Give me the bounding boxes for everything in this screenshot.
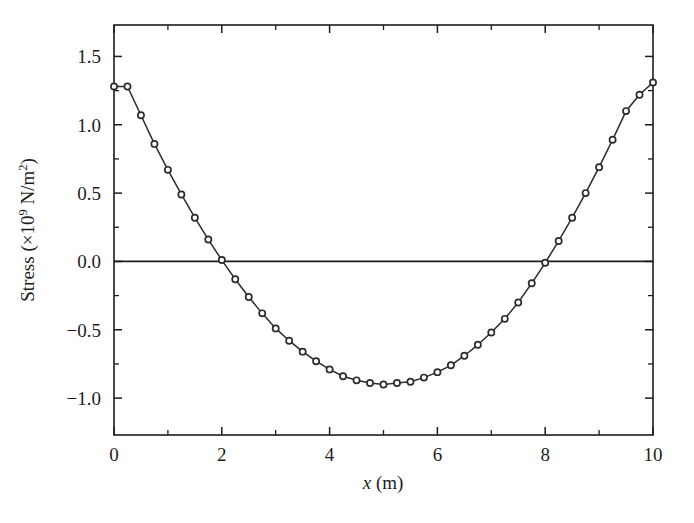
data-point-marker [569,215,575,221]
data-point-marker [515,299,521,305]
data-point-marker [583,190,589,196]
data-point-marker [394,380,400,386]
data-point-marker [286,338,292,344]
data-point-marker [448,362,454,368]
data-point-marker [246,294,252,300]
data-point-marker [609,137,615,143]
data-point-marker [205,236,211,242]
y-tick-label: 1.5 [77,46,101,67]
x-axis-title: x (m) [362,472,404,494]
data-point-marker [623,108,629,114]
data-point-marker [340,373,346,379]
data-point-marker [434,369,440,375]
data-point-marker [259,310,265,316]
data-point-marker [407,379,413,385]
data-point-marker [300,349,306,355]
data-point-marker [421,375,427,381]
y-axis-title: Stress (×109 N/m2) [16,158,39,302]
data-point-marker [313,358,319,364]
data-series-stress [111,79,656,387]
axes-frame [114,25,653,435]
data-point-marker [367,380,373,386]
plot-frame [114,25,653,435]
stress-markers [111,79,656,387]
data-point-marker [475,342,481,348]
y-tick-label: 0.5 [77,183,101,204]
data-point-marker [219,257,225,263]
data-point-marker [380,381,386,387]
data-point-marker [273,325,279,331]
data-point-marker [529,280,535,286]
data-point-marker [461,353,467,359]
data-point-marker [650,79,656,85]
data-point-marker [327,366,333,372]
data-point-marker [636,92,642,98]
data-point-marker [542,260,548,266]
data-point-marker [111,83,117,89]
data-point-marker [138,112,144,118]
x-tick-label: 0 [109,444,119,465]
data-point-marker [151,141,157,147]
x-tick-label: 2 [217,444,227,465]
data-point-marker [488,329,494,335]
data-point-marker [165,167,171,173]
axis-ticks [114,25,653,435]
data-point-marker [124,83,130,89]
y-tick-label: −1.0 [67,388,101,409]
x-tick-labels: 0246810 [109,444,662,465]
data-point-marker [192,215,198,221]
data-point-marker [556,238,562,244]
x-tick-label: 6 [433,444,443,465]
y-tick-label: 0.0 [77,251,101,272]
stress-curve [114,82,653,384]
y-tick-label: −0.5 [67,320,101,341]
data-point-marker [178,191,184,197]
x-tick-label: 10 [644,444,663,465]
x-tick-label: 8 [540,444,550,465]
stress-vs-position-chart: 0246810 −1.0−0.50.00.51.01.5 x (m) Stres… [0,0,694,523]
data-point-marker [502,316,508,322]
y-tick-label: 1.0 [77,115,101,136]
figure-container: 0246810 −1.0−0.50.00.51.01.5 x (m) Stres… [0,0,694,523]
y-tick-labels: −1.0−0.50.00.51.01.5 [67,46,101,409]
data-point-marker [596,164,602,170]
data-point-marker [232,276,238,282]
x-tick-label: 4 [325,444,335,465]
data-point-marker [353,377,359,383]
